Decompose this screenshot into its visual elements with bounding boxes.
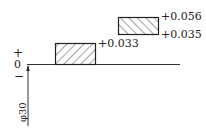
hole-upper-deviation-label: +0.033 <box>98 38 139 49</box>
shaft-upper-deviation-label: +0.056 <box>161 11 202 22</box>
minus-sign-label: − <box>14 70 24 82</box>
basic-size-label: φ30 <box>18 102 28 122</box>
shaft-lower-deviation-label: +0.035 <box>161 29 202 40</box>
hole-tolerance-zone <box>56 44 96 65</box>
shaft-tolerance-zone <box>119 18 159 35</box>
arrow-up-icon <box>26 65 29 71</box>
